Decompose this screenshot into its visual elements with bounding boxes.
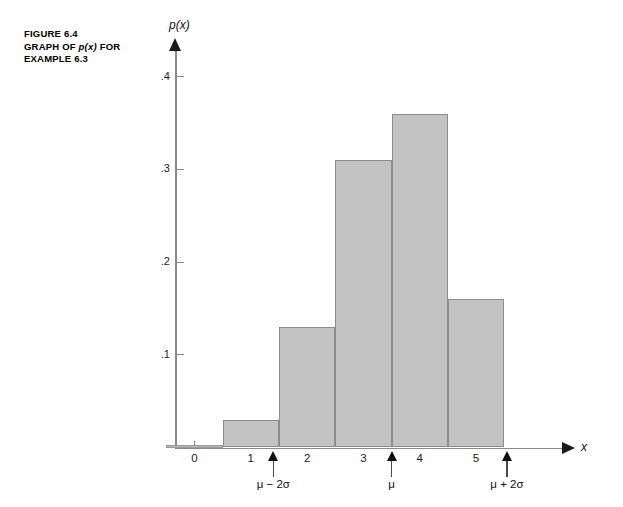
figure-page: FIGURE 6.4 GRAPH OF p(x) FOR EXAMPLE 6.3… [0,0,623,507]
annotation-stem [273,461,274,477]
y-axis-tick-label: .4 [152,70,170,82]
x-axis-line [175,448,564,450]
annotation-arrow-icon [502,451,512,461]
histogram-plot: p(x) x .1.2.3.4 012345 μ − 2σμμ + 2σ [0,0,623,507]
histogram-bar [448,299,504,447]
x-axis-tick-label: 1 [241,452,261,464]
y-axis-line [175,48,177,449]
x-axis-tick-label: 4 [410,452,430,464]
histogram-bar [166,445,222,448]
y-axis-tick [176,262,184,263]
x-axis-tick-label: 0 [185,452,205,464]
histogram-bar [223,420,279,448]
x-axis-arrow-icon [562,442,575,454]
histogram-bar [279,327,335,448]
y-axis-tick [176,354,184,355]
y-axis-arrow-icon [169,38,181,51]
y-axis-tick-label: .3 [152,162,170,174]
annotation-label: μ + 2σ [490,478,523,490]
y-axis-tick-label: .1 [152,348,170,360]
annotation-arrow-icon [268,451,278,461]
annotation-label: μ [388,478,395,490]
y-axis-label: p(x) [169,18,190,32]
annotation-stem [506,461,507,477]
x-axis-tick-label: 2 [297,452,317,464]
x-axis-tick-label: 5 [466,452,486,464]
y-axis-tick [176,169,184,170]
histogram-bar [392,114,448,448]
annotation-label: μ − 2σ [257,478,290,490]
histogram-bar [335,160,391,447]
annotation-arrow-icon [387,451,397,461]
y-axis-tick [176,76,184,77]
y-axis-tick-label: .2 [152,255,170,267]
x-axis-tick-label: 3 [353,452,373,464]
x-axis-label: x [581,440,587,454]
annotation-stem [391,461,392,477]
